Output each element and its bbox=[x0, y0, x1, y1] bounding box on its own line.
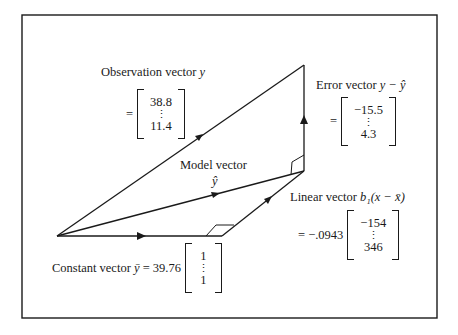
constant-matrix: Constant vector ȳ = 39.76 1⋮1 bbox=[52, 243, 222, 293]
constant-eq: = 39.76 bbox=[140, 261, 181, 275]
model-title: Model vector bbox=[180, 158, 247, 172]
model-var-symbol: ŷ bbox=[212, 174, 218, 188]
error-title: Error vector bbox=[316, 78, 380, 92]
equals-sign: = bbox=[330, 114, 337, 129]
error-label: Error vector y − ŷ bbox=[316, 78, 406, 93]
constant-title: Constant vector bbox=[52, 261, 134, 275]
bracket-right bbox=[215, 243, 222, 293]
linear-matrix: = −.0943 −154⋮346 bbox=[298, 210, 399, 260]
arrowhead-error-icon bbox=[300, 115, 308, 124]
matrix-bottom: 4.3 bbox=[361, 127, 377, 141]
linear-title: Linear vector bbox=[290, 190, 360, 204]
matrix-top: −15.5 bbox=[354, 103, 383, 117]
matrix-top: −154 bbox=[360, 216, 386, 230]
model-var: ŷ bbox=[212, 174, 218, 189]
linear-label: Linear vector b₁(x − x̄) bbox=[290, 190, 405, 205]
matrix-bottom: 11.4 bbox=[150, 119, 171, 133]
error-var: y − ŷ bbox=[380, 78, 406, 92]
observation-matrix: = 38.8⋮11.4 bbox=[126, 89, 185, 139]
arrowhead-constant-icon bbox=[137, 232, 146, 240]
equals-sign: = bbox=[126, 107, 133, 122]
matrix-bottom: 346 bbox=[364, 240, 383, 254]
arrowhead-model-icon bbox=[211, 192, 220, 198]
matrix-dots: ⋮ bbox=[198, 263, 209, 273]
model-vector bbox=[57, 171, 304, 236]
bracket-left bbox=[347, 210, 354, 260]
bracket-left bbox=[341, 97, 348, 146]
bracket-right bbox=[392, 210, 399, 260]
matrix-top: 38.8 bbox=[150, 95, 172, 109]
model-label: Model vector bbox=[180, 158, 247, 173]
matrix-dots: ⋮ bbox=[363, 117, 374, 127]
arrowhead-linear-icon bbox=[264, 196, 272, 204]
observation-var: y bbox=[200, 65, 206, 79]
matrix-bottom: 1 bbox=[200, 273, 206, 287]
bracket-right bbox=[389, 97, 396, 146]
error-matrix: = −15.5⋮4.3 bbox=[330, 97, 396, 146]
coefficient: = −.0943 bbox=[298, 228, 343, 243]
observation-title: Observation vector bbox=[101, 65, 200, 79]
bracket-right bbox=[178, 89, 185, 139]
bracket-left bbox=[137, 89, 144, 139]
matrix-dots: ⋮ bbox=[368, 230, 379, 240]
linear-var: b₁(x − x̄) bbox=[360, 190, 405, 204]
bracket-left bbox=[185, 243, 192, 293]
observation-label: Observation vector y bbox=[101, 65, 205, 80]
matrix-top: 1 bbox=[200, 249, 206, 263]
constant-label: Constant vector ȳ = 39.76 bbox=[52, 261, 181, 276]
matrix-dots: ⋮ bbox=[156, 109, 167, 119]
